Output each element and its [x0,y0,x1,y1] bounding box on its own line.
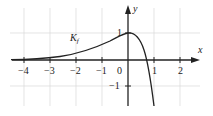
x-axis-label: x [197,44,203,55]
curve-label-subscript: f [77,37,80,45]
x-tick-label: −3 [44,65,55,76]
function-curve [11,33,154,106]
y-axis-arrow-icon [125,5,131,14]
origin-label: 0 [117,65,122,76]
x-tick-label: −2 [70,65,81,76]
function-plot: x y 0 −4 −3 −2 −1 1 2 1 −1 Kf [0,0,213,116]
x-tick-label: −1 [96,65,107,76]
x-tick-label: −4 [18,65,29,76]
y-axis [125,5,131,106]
x-axis-arrow-icon [191,57,200,63]
x-tick-label: 2 [178,65,183,76]
y-tick-label: 1 [117,27,122,38]
y-axis-label: y [132,3,138,14]
x-tick-label: 1 [152,65,157,76]
curve-label: Kf [69,32,80,45]
grid [10,8,200,106]
y-tick-label: −1 [109,80,120,91]
